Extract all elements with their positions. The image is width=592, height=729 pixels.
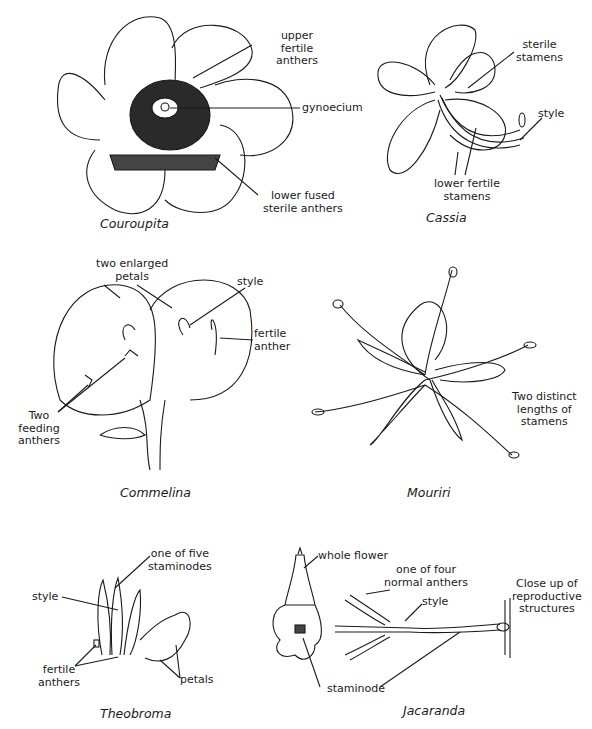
caption-cassia: Cassia (426, 210, 467, 225)
caption-theobroma: Theobroma (100, 706, 171, 721)
caption-commelina: Commelina (120, 485, 191, 500)
mouriri-drawing (312, 267, 536, 458)
label-fertile-anthers: fertile anthers (38, 664, 80, 689)
label-staminode: staminode (327, 683, 385, 696)
label-style-cassia: style (538, 108, 564, 121)
caption-mouriri: Mouriri (407, 485, 451, 500)
label-whole-flower: whole flower (318, 550, 388, 563)
label-two-enlarged-petals: two enlarged petals (96, 258, 168, 283)
label-one-of-four-normal-anthers: one of four normal anthers (384, 564, 468, 589)
cassia-drawing (378, 25, 525, 173)
label-style-theobroma: style (32, 591, 58, 604)
label-style-commelina: style (237, 276, 263, 289)
commelina-drawing (54, 280, 252, 470)
label-lower-fused-sterile-anthers: lower fused sterile anthers (263, 190, 343, 215)
label-gynoecium: gynoecium (302, 102, 363, 115)
label-lower-fertile-stamens: lower fertile stamens (434, 178, 500, 203)
label-fertile-anther: fertile anther (254, 328, 290, 353)
label-one-of-five-staminodes: one of five staminodes (148, 548, 212, 573)
label-close-up-reproductive: Close up of reproductive structures (512, 578, 582, 616)
label-two-distinct-lengths: Two distinct lengths of stamens (512, 391, 577, 429)
label-style-jacaranda: style (422, 596, 448, 609)
caption-couroupita: Couroupita (100, 216, 169, 231)
label-upper-fertile-anthers: upper fertile anthers (276, 30, 318, 68)
label-sterile-stamens: sterile stamens (516, 39, 563, 64)
label-petals: petals (180, 674, 214, 687)
botanical-illustrations (0, 0, 592, 729)
caption-jacaranda: Jacaranda (403, 703, 465, 718)
label-two-feeding-anthers: Two feeding anthers (18, 410, 60, 448)
theobroma-drawing (94, 578, 190, 661)
couroupita-drawing (57, 17, 292, 214)
